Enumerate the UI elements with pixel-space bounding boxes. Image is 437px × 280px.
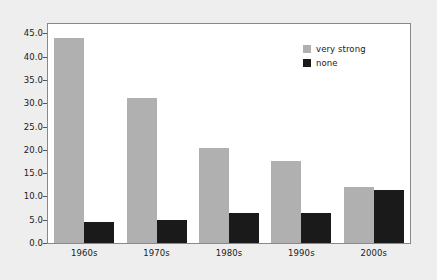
y-axis-tick: 30.0 bbox=[24, 97, 47, 109]
y-axis-tick-mark bbox=[43, 196, 47, 197]
y-axis: 0.05.010.015.020.025.030.035.040.045.0 bbox=[0, 0, 47, 280]
bar-group bbox=[127, 24, 187, 243]
y-axis-tick-mark bbox=[43, 80, 47, 81]
bar-1960s-very-strong bbox=[54, 38, 84, 243]
y-axis-tick-mark bbox=[43, 220, 47, 221]
x-axis-tick-label: 2000s bbox=[338, 248, 410, 258]
y-axis-tick-mark bbox=[43, 243, 47, 244]
y-axis-tick: 20.0 bbox=[24, 144, 47, 156]
y-axis-tick-mark bbox=[43, 127, 47, 128]
y-axis-tick-mark bbox=[43, 173, 47, 174]
legend-item-very-strong: very strong bbox=[303, 42, 403, 56]
x-axis-tick-label: 1960s bbox=[48, 248, 120, 258]
legend-swatch-icon bbox=[303, 45, 311, 53]
legend-swatch-icon bbox=[303, 59, 311, 67]
chart-legend: very strongnone bbox=[303, 42, 403, 70]
y-axis-tick-mark bbox=[43, 33, 47, 34]
bar-group bbox=[199, 24, 259, 243]
legend-item-label: none bbox=[316, 58, 338, 68]
y-axis-tick: 0.0 bbox=[29, 237, 47, 249]
bar-chart-figure: 0.05.010.015.020.025.030.035.040.045.0 1… bbox=[0, 0, 437, 280]
y-axis-tick-mark bbox=[43, 103, 47, 104]
y-axis-tick: 5.0 bbox=[29, 214, 47, 226]
bar-1970s-none bbox=[157, 220, 187, 243]
y-axis-tick: 10.0 bbox=[24, 190, 47, 202]
bar-1960s-none bbox=[84, 222, 114, 243]
legend-item-label: very strong bbox=[316, 44, 366, 54]
bar-1980s-very-strong bbox=[199, 148, 229, 243]
bar-2000s-very-strong bbox=[344, 187, 374, 243]
y-axis-tick: 35.0 bbox=[24, 74, 47, 86]
x-axis-tick-label: 1990s bbox=[265, 248, 337, 258]
y-axis-tick: 40.0 bbox=[24, 51, 47, 63]
bar-2000s-none bbox=[374, 190, 404, 243]
x-axis-tick-label: 1980s bbox=[193, 248, 265, 258]
bar-1970s-very-strong bbox=[127, 98, 157, 243]
bar-1990s-none bbox=[301, 213, 331, 243]
x-axis-tick-label: 1970s bbox=[120, 248, 192, 258]
bar-1980s-none bbox=[229, 213, 259, 243]
y-axis-tick: 45.0 bbox=[24, 27, 47, 39]
y-axis-tick: 25.0 bbox=[24, 121, 47, 133]
legend-item-none: none bbox=[303, 56, 403, 70]
bar-group bbox=[54, 24, 114, 243]
x-axis: 1960s1970s1980s1990s2000s bbox=[48, 248, 410, 268]
bar-1990s-very-strong bbox=[271, 161, 301, 243]
y-axis-tick: 15.0 bbox=[24, 167, 47, 179]
y-axis-tick-mark bbox=[43, 57, 47, 58]
y-axis-tick-mark bbox=[43, 150, 47, 151]
